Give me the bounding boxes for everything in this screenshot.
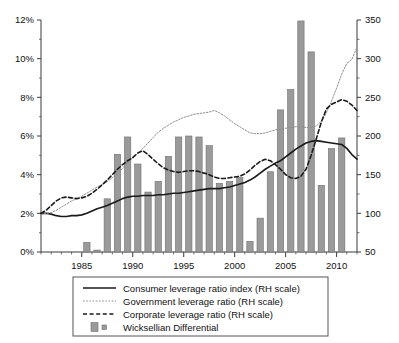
x-axis-tick-label: 2000 (224, 260, 245, 271)
left-axis-tick-label: 12% (15, 14, 35, 25)
right-axis-tick-label: 350 (365, 14, 381, 25)
bar (308, 52, 314, 252)
x-axis-tick-label: 1995 (173, 260, 194, 271)
bar (155, 181, 161, 252)
left-axis-tick-label: 10% (15, 53, 35, 64)
bar (267, 172, 273, 252)
legend-label: Consumer leverage ratio index (RH scale) (123, 283, 300, 294)
bar (328, 149, 334, 252)
right-axis-tick-label: 50 (365, 246, 376, 257)
right-axis-tick-label: 200 (365, 130, 381, 141)
bar (196, 137, 202, 252)
bar-swatch (91, 323, 98, 332)
left-axis-tick-label: 2% (20, 208, 34, 219)
bar (175, 137, 181, 252)
x-axis-tick-label: 2005 (275, 260, 296, 271)
bar (216, 183, 222, 252)
bar (226, 181, 232, 252)
bar (318, 185, 324, 252)
right-axis-tick-label: 100 (365, 208, 381, 219)
bar (277, 110, 283, 252)
left-axis-tick-label: 8% (20, 92, 34, 103)
bar (237, 178, 243, 252)
legend-label: Wicksellian Differential (123, 322, 218, 333)
left-axis-tick-label: 0% (20, 246, 34, 257)
x-axis-tick-label: 1990 (122, 260, 143, 271)
legend-label: Government leverage ratio (RH scale) (123, 296, 283, 307)
bar (247, 241, 253, 252)
bar-swatch-small (102, 325, 107, 330)
legend-label: Corporate leverage ratio (RH scale) (123, 309, 273, 320)
legend: Consumer leverage ratio index (RH scale)… (73, 277, 328, 336)
bar (124, 137, 130, 252)
x-axis-tick-label: 2010 (326, 260, 347, 271)
left-axis-tick-label: 4% (20, 169, 34, 180)
bar (298, 21, 304, 252)
bar (94, 250, 100, 252)
bar-series-wicksellian-differential (84, 21, 345, 252)
bar (84, 242, 90, 252)
left-axis-tick-label: 6% (20, 130, 34, 141)
right-axis-tick-label: 300 (365, 53, 381, 64)
x-axis-tick-label: 1985 (71, 260, 92, 271)
leverage-ratio-chart: 0%2%4%6%8%10%12%501001502002503003501985… (0, 0, 399, 343)
bar (145, 192, 151, 252)
right-axis-tick-label: 150 (365, 169, 381, 180)
bar (135, 164, 141, 252)
right-axis-tick-label: 250 (365, 92, 381, 103)
bar (186, 136, 192, 252)
bar (206, 146, 212, 252)
bar (257, 218, 263, 252)
bar (339, 138, 345, 252)
chart-figure: 0%2%4%6%8%10%12%501001502002503003501985… (0, 0, 399, 343)
bar (288, 90, 294, 252)
